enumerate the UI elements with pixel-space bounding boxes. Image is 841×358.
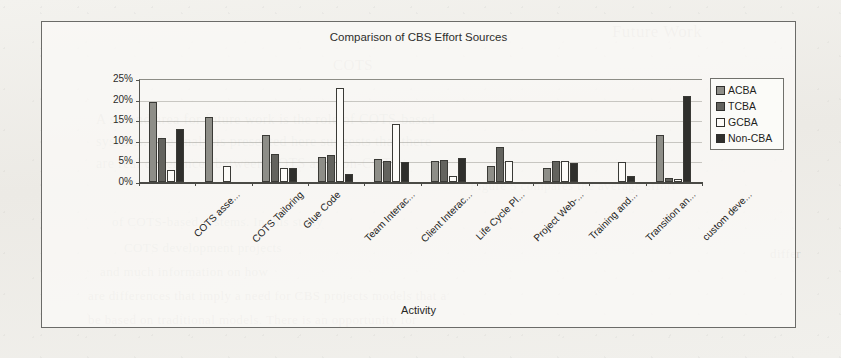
legend-item-tcba: TCBA [716,100,779,112]
x-axis-tick [646,182,647,186]
bar-gcba [336,88,344,182]
bar-non-cba [345,174,353,182]
x-axis-tick [477,182,478,186]
legend-item-non-cba: Non-CBA [716,132,779,144]
bar-tcba [440,160,448,182]
bar-tcba [383,161,391,182]
bar-gcba [561,161,569,182]
y-axis-tick-label: 5% [119,155,133,166]
bar-acba [374,159,382,182]
x-axis-category-label: Transition an... [644,189,698,243]
x-axis-category-label: custom deve... [700,189,754,243]
bar-acba [318,157,326,182]
x-axis-tick [252,182,253,186]
x-axis-tick [533,182,534,186]
x-axis-category-label: Life Cycle Pl... [474,189,527,242]
legend-label: GCBA [728,116,758,128]
bar-gcba [505,161,513,182]
bar-non-cba [401,162,409,182]
legend-label: TCBA [728,100,756,112]
bar-acba [543,168,551,182]
plot-area: 0%5%10%15%20%25% [139,79,702,182]
x-axis-tick [308,182,309,186]
bar-group [318,80,354,182]
y-axis-tick [136,142,140,143]
legend-swatch-icon [716,118,725,127]
bar-group [374,80,410,182]
chart-title: Comparison of CBS Effort Sources [42,31,795,43]
bar-non-cba [570,163,578,182]
bar-acba [656,135,664,182]
legend-item-gcba: GCBA [716,116,779,128]
bar-gcba [392,124,400,182]
chart-figure: Comparison of CBS Effort Sources 0%5%10%… [41,21,796,328]
bar-group [205,80,241,182]
bar-non-cba [289,168,297,182]
bar-acba [262,135,270,182]
x-axis-category-label: Project Web-... [531,189,585,243]
legend-label: ACBA [728,84,757,96]
x-axis-title: Activity [42,304,795,316]
y-axis-tick [136,162,140,163]
y-axis-tick-label: 15% [113,114,133,125]
bar-acba [149,102,157,182]
bar-non-cba [683,96,691,182]
x-axis-tick [421,182,422,186]
bar-group [656,80,692,182]
x-axis-tick [702,182,703,186]
bar-tcba [158,138,166,182]
x-axis-tick [364,182,365,186]
bar-tcba [271,154,279,182]
bar-acba [431,161,439,182]
bar-tcba [496,147,504,182]
x-axis-category-label: COTS asse... [191,189,241,239]
y-axis-tick-label: 20% [113,94,133,105]
bar-gcba [167,170,175,182]
x-axis-category-label: COTS Tailoring [250,189,306,245]
legend-label: Non-CBA [728,132,772,144]
y-axis-tick [136,80,140,81]
legend-swatch-icon [716,86,725,95]
x-axis-tick [195,182,196,186]
bar-group [487,80,523,182]
bar-group [543,80,579,182]
x-axis-category-label: Glue Code [301,189,343,231]
x-axis-category-label: Training and... [587,189,640,242]
bar-non-cba [458,158,466,182]
x-axis-tick [589,182,590,186]
bar-group [600,80,636,182]
legend-swatch-icon [716,134,725,143]
y-axis-tick [136,101,140,102]
chart-legend: ACBATCBAGCBANon-CBA [710,78,784,150]
plot-inner [140,80,702,182]
legend-swatch-icon [716,102,725,111]
bar-tcba [327,155,335,182]
bar-tcba [552,161,560,182]
y-axis-tick-label: 10% [113,135,133,146]
bar-group [262,80,298,182]
bar-group [431,80,467,182]
x-axis-category-label: Team Interac... [362,189,417,244]
bar-group [149,80,185,182]
x-axis-tick [139,182,140,186]
legend-item-acba: ACBA [716,84,779,96]
bar-gcba [618,162,626,182]
y-axis-tick-label: 0% [119,176,133,187]
bar-gcba [223,166,231,182]
bar-non-cba [176,129,184,182]
bar-gcba [280,168,288,182]
bar-acba [487,166,495,182]
x-axis-category-label: Client Interac... [419,189,474,244]
y-axis-tick-label: 25% [113,73,133,84]
y-axis-tick [136,121,140,122]
bar-acba [205,117,213,182]
